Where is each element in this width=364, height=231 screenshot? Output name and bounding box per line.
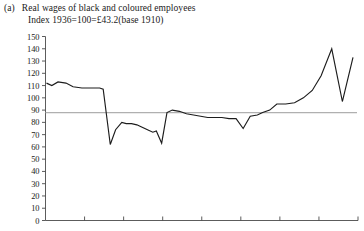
y-tick-label: 30 — [31, 180, 39, 189]
y-tick-label: 80 — [31, 118, 39, 127]
y-tick-label: 140 — [27, 45, 40, 54]
y-tick-label: 50 — [31, 155, 39, 164]
figure-panel: (a) Real wages of black and coloured emp… — [0, 0, 364, 231]
y-axis-tick-marks — [42, 37, 46, 221]
y-tick-label: 90 — [31, 106, 39, 115]
y-tick-label: 120 — [27, 69, 40, 78]
y-axis-tick-labels: 0102030405060708090100110120130140150 — [27, 33, 40, 226]
y-tick-label: 10 — [31, 204, 39, 213]
y-tick-label: 20 — [31, 192, 39, 201]
y-tick-label: 110 — [27, 82, 39, 91]
y-tick-label: 70 — [31, 131, 39, 140]
y-tick-label: 60 — [31, 143, 39, 152]
y-tick-label: 100 — [27, 94, 40, 103]
y-tick-label: 150 — [27, 33, 40, 42]
y-tick-label: 0 — [35, 217, 39, 226]
y-tick-label: 40 — [31, 167, 39, 176]
y-tick-label: 130 — [27, 57, 40, 66]
data-series-line — [47, 49, 354, 145]
line-chart: 0102030405060708090100110120130140150 — [0, 0, 364, 231]
x-axis-tick-marks — [85, 217, 358, 221]
